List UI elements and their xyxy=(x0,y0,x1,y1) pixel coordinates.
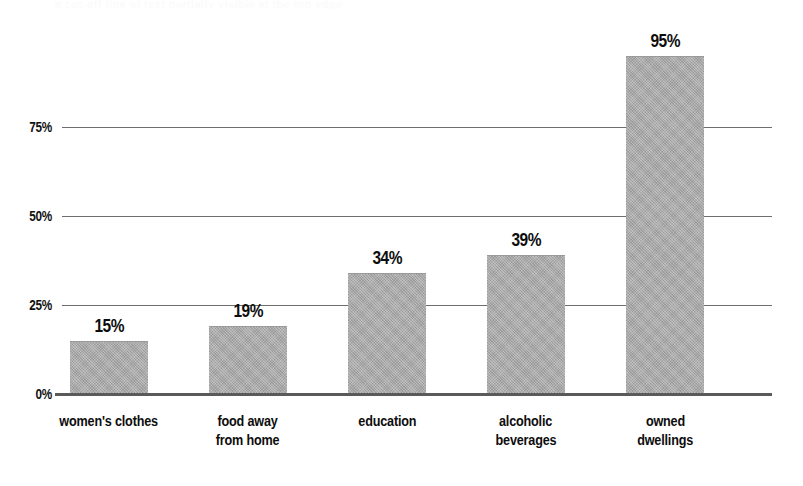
x-label-line: women's clothes xyxy=(60,412,159,431)
plot-area: 75% 50% 25% 0% 15% 19% 34% xyxy=(0,0,803,486)
x-label-line: from home xyxy=(216,431,280,450)
x-label-line: education xyxy=(358,412,416,431)
bar-value-text: 15% xyxy=(94,316,124,336)
bar-education[interactable] xyxy=(348,273,426,395)
bar-value-text: 19% xyxy=(233,301,263,321)
y-tick-0: 0% xyxy=(0,386,52,402)
bar-value-text: 95% xyxy=(650,31,680,51)
y-tick-label-50: 50% xyxy=(12,208,52,224)
bar-womens-clothes[interactable] xyxy=(70,341,148,395)
x-label-line: food away xyxy=(218,412,278,431)
bar-value-owned-dwellings: 95% xyxy=(626,31,704,51)
bar-value-text: 34% xyxy=(372,248,402,268)
bar-value-alcoholic-beverages: 39% xyxy=(487,230,565,250)
x-label-womens-clothes: women's clothes xyxy=(39,412,179,431)
x-label-line: alcoholic xyxy=(499,412,552,431)
bar-alcoholic-beverages[interactable] xyxy=(487,255,565,395)
y-tick-label-75: 75% xyxy=(12,119,52,135)
x-label-line: dwellings xyxy=(637,431,693,450)
y-tick-label-25: 25% xyxy=(12,297,52,313)
bar-food-away-from-home[interactable] xyxy=(209,326,287,395)
y-tick-25: 25% xyxy=(0,297,52,313)
x-label-line: owned xyxy=(645,412,684,431)
bar-chart: a cut-off line of text partially visible… xyxy=(0,0,803,486)
y-tick-75: 75% xyxy=(0,119,52,135)
x-axis-baseline xyxy=(55,393,772,396)
bar-value-food-away-from-home: 19% xyxy=(209,301,287,321)
y-tick-50: 50% xyxy=(0,208,52,224)
bar-owned-dwellings[interactable] xyxy=(626,56,704,395)
x-label-education: education xyxy=(317,412,457,431)
x-label-food-away-from-home: food away from home xyxy=(178,412,318,450)
bar-value-womens-clothes: 15% xyxy=(70,316,148,336)
x-label-alcoholic-beverages: alcoholic beverages xyxy=(456,412,596,450)
y-tick-label-0: 0% xyxy=(12,386,52,402)
x-label-line: beverages xyxy=(496,431,557,450)
bar-value-text: 39% xyxy=(511,230,541,250)
x-label-owned-dwellings: owned dwellings xyxy=(595,412,735,450)
bar-value-education: 34% xyxy=(348,248,426,268)
